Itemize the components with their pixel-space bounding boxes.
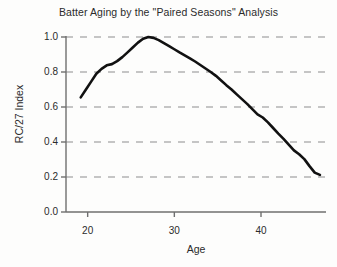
data-series-group [81, 37, 320, 175]
y-tick-marks [61, 37, 66, 212]
x-tick-label: 30 [154, 225, 194, 236]
gridlines-group [66, 37, 326, 177]
y-tick-label: 0.6 [24, 101, 58, 112]
x-tick-marks [88, 212, 261, 217]
y-tick-label: 0.2 [24, 171, 58, 182]
x-tick-label: 40 [241, 225, 281, 236]
y-axis-title: RC/27 Index [13, 64, 25, 164]
chart-screenshot: Batter Aging by the "Paired Seasons" Ana… [0, 0, 337, 267]
y-tick-label: 0.0 [24, 206, 58, 217]
x-tick-label: 20 [68, 225, 108, 236]
x-axis-title: Age [66, 243, 326, 255]
y-tick-label: 1.0 [24, 31, 58, 42]
y-tick-label: 0.4 [24, 136, 58, 147]
data-line-series [81, 37, 320, 175]
y-tick-label: 0.8 [24, 66, 58, 77]
